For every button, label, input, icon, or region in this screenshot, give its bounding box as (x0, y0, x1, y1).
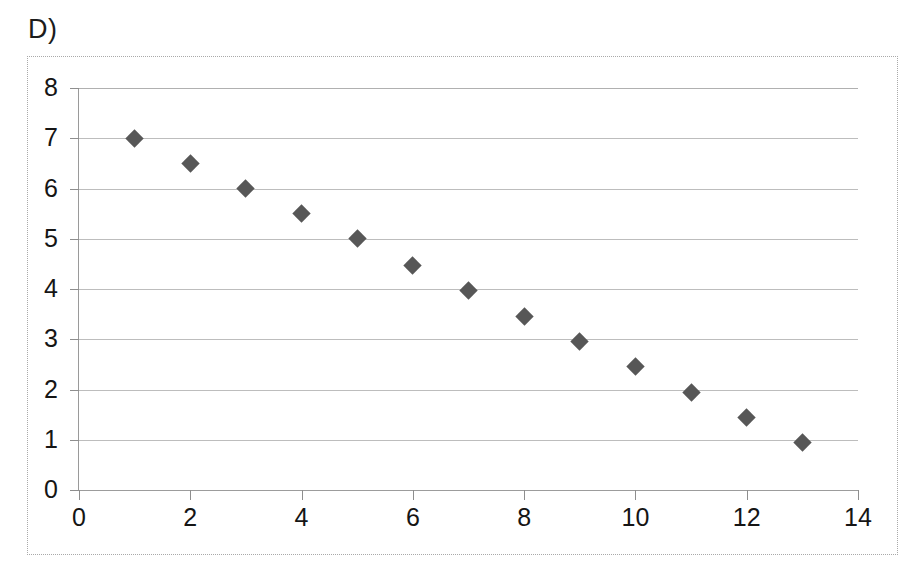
data-point (793, 434, 811, 452)
data-point (571, 332, 589, 350)
data-point (738, 408, 756, 426)
x-axis-tick-label: 8 (494, 505, 554, 530)
y-axis-tick (70, 339, 79, 340)
scatter-plot: 012345678 02468101214 (0, 0, 920, 587)
data-point (125, 129, 143, 147)
y-axis-tick-label: 4 (28, 276, 58, 301)
figure-panel-d: D) 012345678 02468101214 (0, 0, 920, 587)
y-axis-tick-label: 2 (28, 377, 58, 402)
y-axis-tick (70, 138, 79, 139)
x-axis-tick (79, 490, 80, 500)
gridline-y (79, 239, 858, 240)
y-axis-tick-label: 0 (28, 477, 58, 502)
gridline-y (79, 490, 858, 491)
data-point (459, 281, 477, 299)
x-axis-tick (302, 490, 303, 500)
gridline-y (79, 339, 858, 340)
y-axis-tick-label: 6 (28, 176, 58, 201)
data-point (181, 154, 199, 172)
data-point (515, 307, 533, 325)
data-point (626, 358, 644, 376)
x-axis-tick (190, 490, 191, 500)
gridline-y (79, 138, 858, 139)
y-axis-tick (70, 390, 79, 391)
x-axis-tick (524, 490, 525, 500)
y-axis-tick (70, 490, 79, 491)
data-point (348, 230, 366, 248)
gridline-y (79, 189, 858, 190)
data-point (292, 204, 310, 222)
y-axis-tick-label: 7 (28, 125, 58, 150)
y-axis-tick (70, 239, 79, 240)
data-point (237, 179, 255, 197)
x-axis-tick-label: 14 (828, 505, 888, 530)
x-axis-tick (747, 490, 748, 500)
gridline-y (79, 88, 858, 89)
x-axis-tick-label: 4 (272, 505, 332, 530)
y-axis-tick-label: 1 (28, 427, 58, 452)
x-axis-tick-label: 10 (605, 505, 665, 530)
y-axis-tick (70, 88, 79, 89)
y-axis-tick (70, 289, 79, 290)
y-axis-tick-label: 3 (28, 326, 58, 351)
x-axis-tick (635, 490, 636, 500)
x-axis-tick-label: 12 (717, 505, 777, 530)
data-point (404, 256, 422, 274)
x-axis-tick-label: 2 (160, 505, 220, 530)
y-axis-tick-label: 8 (28, 75, 58, 100)
x-axis-tick-label: 0 (49, 505, 109, 530)
x-axis-tick (413, 490, 414, 500)
x-axis-tick (858, 490, 859, 500)
y-axis-tick (70, 440, 79, 441)
data-point (682, 383, 700, 401)
x-axis-tick-label: 6 (383, 505, 443, 530)
y-axis-tick-label: 5 (28, 226, 58, 251)
y-axis-tick (70, 189, 79, 190)
gridline-y (79, 440, 858, 441)
gridline-y (79, 390, 858, 391)
